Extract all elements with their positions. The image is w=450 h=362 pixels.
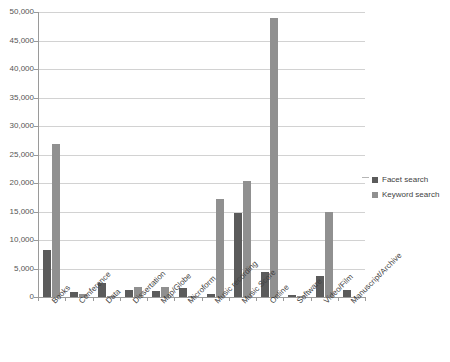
x-axis-tick-mark xyxy=(365,297,366,301)
bar-facet-search[interactable] xyxy=(207,294,215,297)
bar-keyword-search[interactable] xyxy=(52,144,60,297)
bar-group[interactable] xyxy=(120,12,147,297)
legend-label: Facet search xyxy=(382,175,428,184)
bar-group[interactable] xyxy=(338,12,365,297)
bar-facet-search[interactable] xyxy=(43,250,51,297)
plot-area xyxy=(38,12,365,297)
y-axis-tick-label: 50,000 xyxy=(0,8,34,16)
y-axis-tick-label: 15,000 xyxy=(0,208,34,216)
y-axis-tick-label: 0 xyxy=(0,293,34,301)
legend-swatch-icon xyxy=(372,177,378,183)
bar-facet-search[interactable] xyxy=(152,291,160,297)
y-axis-tick-label: 5,000 xyxy=(0,265,34,273)
y-axis-tick-label: 30,000 xyxy=(0,122,34,130)
legend-item[interactable]: Keyword search xyxy=(372,188,450,201)
bar-group[interactable] xyxy=(256,12,283,297)
y-axis-tick-label: 25,000 xyxy=(0,151,34,159)
bar-group[interactable] xyxy=(283,12,310,297)
y-axis-tick-label: 20,000 xyxy=(0,179,34,187)
bar-keyword-search[interactable] xyxy=(216,199,224,297)
legend-label: Keyword search xyxy=(382,190,439,199)
bar-group[interactable] xyxy=(229,12,256,297)
bars-layer xyxy=(38,12,365,297)
bar-group[interactable] xyxy=(65,12,92,297)
y-axis-tick-label: 10,000 xyxy=(0,236,34,244)
bar-group[interactable] xyxy=(174,12,201,297)
bar-facet-search[interactable] xyxy=(125,290,133,297)
bar-group[interactable] xyxy=(93,12,120,297)
bar-group[interactable] xyxy=(202,12,229,297)
bar-group[interactable] xyxy=(38,12,65,297)
x-axis-labels: BooksConferenceDataDissertationMap/Globe… xyxy=(38,299,365,362)
bar-facet-search[interactable] xyxy=(343,290,351,297)
y-axis-tick-label: 45,000 xyxy=(0,37,34,45)
bar-keyword-search[interactable] xyxy=(325,212,333,298)
legend-item[interactable]: Facet search xyxy=(372,173,450,186)
bar-facet-search[interactable] xyxy=(288,295,296,297)
y-axis-tick-label: 40,000 xyxy=(0,65,34,73)
bar-group[interactable] xyxy=(311,12,338,297)
bar-group[interactable] xyxy=(147,12,174,297)
bar-keyword-search[interactable] xyxy=(270,18,278,297)
bar-chart: 05,00010,00015,00020,00025,00030,00035,0… xyxy=(0,0,450,362)
legend-leader-line xyxy=(362,177,369,178)
y-axis-tick-label: 35,000 xyxy=(0,94,34,102)
legend-swatch-icon xyxy=(372,192,378,198)
bar-facet-search[interactable] xyxy=(70,292,78,297)
chart-legend: Facet searchKeyword search xyxy=(372,173,450,203)
chart-title xyxy=(0,0,450,3)
